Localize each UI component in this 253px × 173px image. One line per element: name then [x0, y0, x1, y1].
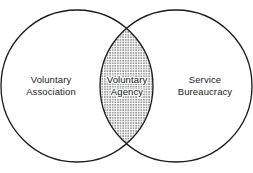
- venn-label-left-line1: Voluntary: [14, 74, 88, 86]
- venn-label-right-line2: Bureaucracy: [166, 86, 244, 98]
- venn-label-left-set: Voluntary Association: [14, 74, 88, 98]
- venn-label-right-line1: Service: [166, 74, 244, 86]
- venn-label-intersection: Voluntary Agency: [92, 74, 162, 98]
- venn-diagram: Voluntary Association Voluntary Agency S…: [0, 0, 253, 173]
- venn-label-intersection-line1: Voluntary: [92, 74, 162, 86]
- venn-label-left-line2: Association: [14, 86, 88, 98]
- venn-label-intersection-line2: Agency: [92, 86, 162, 98]
- venn-label-right-set: Service Bureaucracy: [166, 74, 244, 98]
